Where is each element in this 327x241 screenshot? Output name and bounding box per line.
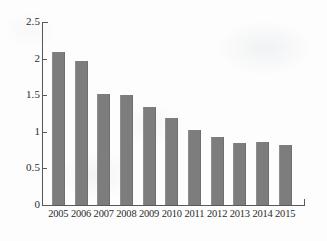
y-axis-tick-label-row: 1.5 <box>0 89 40 100</box>
bar <box>143 107 156 205</box>
y-axis-tick-label-row: 2.5 <box>0 16 40 27</box>
bar <box>233 143 246 205</box>
plot-area <box>42 22 304 205</box>
bar <box>211 137 224 205</box>
bar <box>188 130 201 205</box>
y-axis-tick-mark <box>42 205 47 206</box>
bar <box>97 94 110 205</box>
bar <box>279 145 292 205</box>
bar <box>52 52 65 205</box>
y-axis-tick-label: 1 <box>4 126 40 137</box>
bar <box>256 142 269 205</box>
x-axis-end-tick <box>304 199 305 206</box>
x-axis-tick-label: 2015 <box>270 208 300 220</box>
y-axis-tick-label-row: 0 <box>0 199 40 210</box>
y-axis-tick-label-row: 0.5 <box>0 162 40 173</box>
bar-chart-figure: 00.511.522.5 200520062007200820092010201… <box>0 0 327 241</box>
y-axis-tick-label-row: 2 <box>0 53 40 64</box>
y-axis-tick-label: 2.5 <box>4 16 40 27</box>
bar <box>120 95 133 205</box>
y-axis-tick-label: 2 <box>4 53 40 64</box>
y-axis-tick-label: 1.5 <box>4 89 40 100</box>
x-axis-line <box>42 205 305 206</box>
y-axis-tick-label: 0 <box>4 199 40 210</box>
bar <box>75 61 88 205</box>
y-axis-tick-label: 0.5 <box>4 162 40 173</box>
bar <box>165 118 178 205</box>
y-axis-tick-label-row: 1 <box>0 126 40 137</box>
